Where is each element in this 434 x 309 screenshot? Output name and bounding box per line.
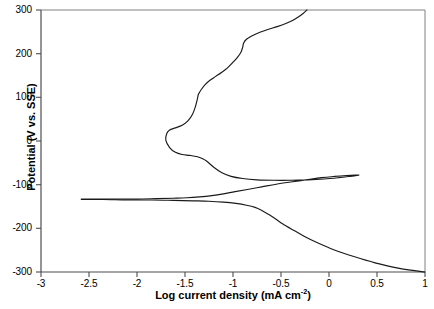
curve-anodic xyxy=(81,10,359,199)
polarization-curve-figure: 300 200 100 0 -100 -200 -300 -3 -2.5 -2 … xyxy=(0,0,434,309)
data-curves xyxy=(81,10,425,272)
curve-cathodic xyxy=(81,199,425,272)
y-axis-title: Potential (V vs. SSE) xyxy=(25,47,37,227)
x-axis-ticks xyxy=(41,272,425,277)
x-axis-title: Log current density (mA cm-2) xyxy=(41,288,425,301)
axis-frame xyxy=(41,10,425,272)
ytick-label-neg300: -300 xyxy=(4,266,32,277)
ytick-label-300: 300 xyxy=(4,4,32,15)
x-axis-title-main: Log current density (mA cm xyxy=(155,289,301,301)
chart-plot-area xyxy=(0,0,434,309)
x-axis-title-tail: ) xyxy=(307,289,311,301)
